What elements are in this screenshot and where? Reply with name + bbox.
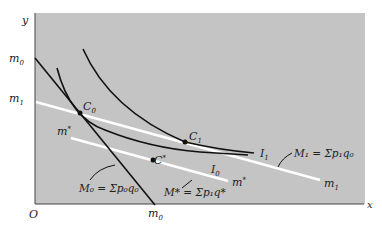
point-c0 xyxy=(78,111,83,116)
y-axis-label: y xyxy=(21,14,29,27)
indifference-diagram: y x O m0 m1 m0 C0 C1 C* I0 I1 m* m* m1 M… xyxy=(0,0,382,232)
y-tick-m0: m0 xyxy=(9,52,24,67)
equation-m1: M₁ = Σp₁q₀ xyxy=(293,147,355,159)
x-axis-label: x xyxy=(367,199,373,210)
x-tick-m0: m0 xyxy=(148,207,163,222)
y-tick-m1: m1 xyxy=(9,92,24,107)
equation-m0: M₀ = Σp₀q₀ xyxy=(78,182,140,194)
origin-label: O xyxy=(29,208,38,221)
equation-mstar: M* = Σp₁q* xyxy=(163,186,227,198)
point-c1 xyxy=(183,140,188,145)
